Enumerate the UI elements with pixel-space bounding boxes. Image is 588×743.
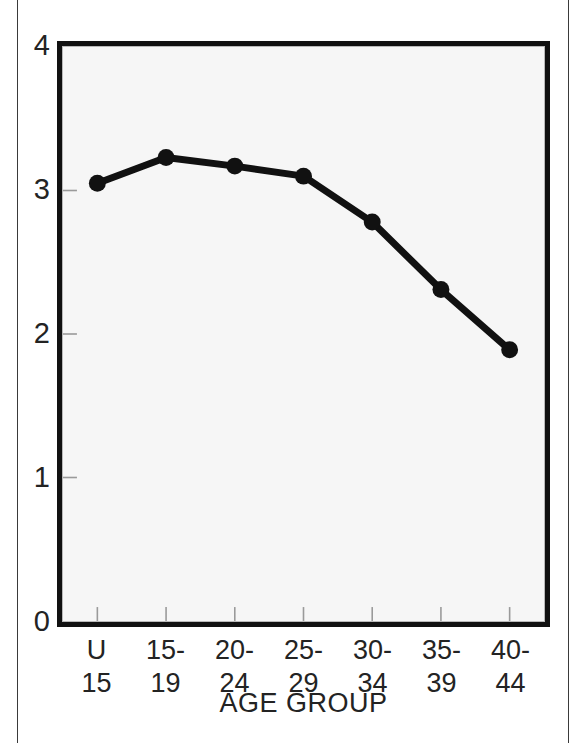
data-point-2 (226, 158, 243, 175)
line-chart-figure: 43210 U1515-1920-2425-2930-3435-3940-44 … (0, 0, 588, 743)
x-tick-line1: 20- (215, 635, 254, 665)
y-tick-label-4: 4 (10, 31, 50, 60)
figure-page: 43210 U1515-1920-2425-2930-3435-3940-44 … (0, 0, 588, 743)
x-tick-line1: 40- (491, 635, 530, 665)
data-point-5 (432, 281, 449, 298)
y-axis-tick-labels: 43210 (0, 0, 50, 743)
x-tick-line1: 35- (422, 635, 461, 665)
data-line (97, 157, 509, 349)
data-point-1 (158, 149, 175, 166)
x-axis-title: AGE GROUP (57, 688, 550, 719)
plot-frame (57, 41, 550, 627)
data-point-0 (89, 175, 106, 192)
data-point-4 (364, 214, 381, 231)
y-tick-label-3: 3 (10, 175, 50, 204)
x-tick-line1: U (87, 635, 107, 665)
y-tick-label-0: 0 (10, 607, 50, 636)
x-tick-line1: 30- (353, 635, 392, 665)
y-tick-label-2: 2 (10, 319, 50, 348)
x-tick-line1: 15- (146, 635, 185, 665)
chart-canvas (63, 47, 544, 621)
data-point-6 (501, 341, 518, 358)
y-tick-label-1: 1 (10, 463, 50, 492)
data-point-3 (295, 168, 312, 185)
x-tick-line1: 25- (284, 635, 323, 665)
plot-area (62, 46, 545, 622)
